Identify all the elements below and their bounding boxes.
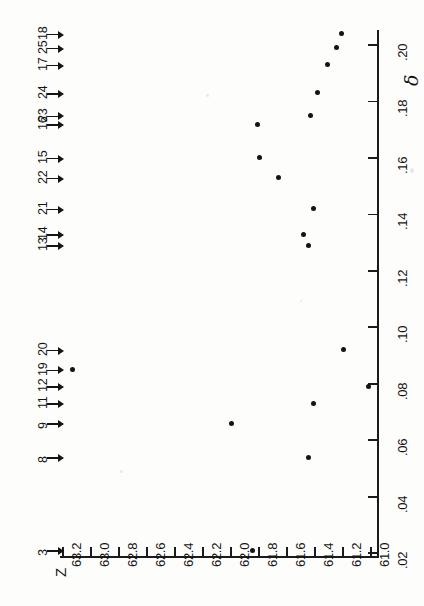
arrow-head-icon: [58, 242, 64, 250]
z-tick-label: 61.0: [377, 543, 392, 567]
z-tick: [202, 547, 204, 558]
data-point: [257, 155, 262, 160]
delta-tick: [368, 157, 379, 159]
data-point: [325, 62, 330, 67]
z-tick-label: 61.6: [293, 543, 308, 567]
data-point: [339, 31, 344, 36]
scan-speck: [410, 168, 414, 173]
data-point: [308, 113, 313, 118]
delta-tick: [368, 214, 379, 216]
z-tick-label: 62.4: [181, 543, 196, 567]
z-tick: [118, 547, 120, 558]
arrow-head-icon: [58, 366, 64, 374]
data-point: [334, 45, 339, 50]
arrow-marker-label: 3: [36, 550, 50, 557]
arrow-head-icon: [58, 112, 64, 120]
z-axis-label: Z: [52, 568, 69, 577]
z-tick: [342, 547, 344, 558]
z-tick-label: 63.2: [69, 543, 84, 567]
data-point: [315, 90, 320, 95]
data-point: [250, 548, 255, 553]
arrow-head-icon: [58, 31, 64, 39]
arrow-marker-label: 21: [36, 201, 50, 214]
z-tick-label: 62.0: [237, 543, 252, 567]
data-point: [341, 347, 346, 352]
arrow-head-icon: [58, 121, 64, 129]
delta-tick: [368, 44, 379, 46]
arrow-marker-label: 12: [36, 379, 50, 392]
arrow-head-icon: [58, 175, 64, 183]
data-point: [306, 455, 311, 460]
arrow-marker-label: 15: [36, 151, 50, 164]
arrow-marker-label: 17: [36, 57, 50, 70]
z-tick: [286, 547, 288, 558]
arrow-marker-label: 22: [36, 170, 50, 183]
scan-speck: [300, 300, 302, 302]
arrow-marker-label: 19: [36, 362, 50, 375]
arrow-marker-label: 8: [36, 456, 50, 463]
arrow-marker-label: 13: [36, 238, 50, 251]
z-tick-label: 61.8: [265, 543, 280, 567]
delta-tick-label: .08: [395, 382, 410, 399]
z-tick: [174, 547, 176, 558]
delta-tick-label: .16: [395, 157, 410, 174]
z-tick-label: 62.6: [153, 543, 168, 567]
arrow-head-icon: [58, 383, 64, 391]
delta-tick-label: .20: [395, 44, 410, 61]
scan-speck: [120, 470, 123, 473]
data-point: [255, 122, 260, 127]
data-point: [366, 384, 371, 389]
arrow-head-icon: [58, 420, 64, 428]
data-point: [70, 367, 75, 372]
z-tick: [230, 547, 232, 558]
z-tick-label: 62.8: [125, 543, 140, 567]
z-tick: [258, 547, 260, 558]
delta-axis-line: [377, 30, 379, 558]
delta-axis-label: δ: [400, 75, 422, 86]
delta-tick: [368, 101, 379, 103]
delta-tick-label: .06: [395, 439, 410, 456]
arrow-marker-label: 23: [36, 108, 50, 121]
delta-tick-label: .14: [395, 213, 410, 230]
z-tick-label: 61.4: [321, 543, 336, 567]
arrow-head-icon: [58, 62, 64, 70]
arrow-marker-label: 25: [36, 41, 50, 54]
z-tick: [90, 547, 92, 558]
data-point: [301, 232, 306, 237]
delta-tick-label: .04: [395, 495, 410, 512]
arrow-marker-label: 14: [36, 227, 50, 240]
arrow-head-icon: [58, 347, 64, 355]
arrow-head-icon: [58, 206, 64, 214]
data-point: [311, 206, 316, 211]
arrow-marker-label: 20: [36, 342, 50, 355]
delta-tick-label: .02: [395, 552, 410, 569]
z-tick-label: 62.2: [209, 543, 224, 567]
data-point: [229, 421, 234, 426]
delta-tick: [368, 326, 379, 328]
arrow-head-icon: [58, 547, 64, 555]
delta-tick: [368, 270, 379, 272]
z-tick-label: 63.0: [97, 543, 112, 567]
arrow-head-icon: [58, 155, 64, 163]
arrow-head-icon: [58, 400, 64, 408]
data-point: [276, 175, 281, 180]
arrow-marker-label: 18: [36, 26, 50, 39]
arrow-marker-label: 11: [36, 397, 50, 409]
delta-tick-label: .18: [395, 100, 410, 117]
delta-tick-label: .12: [395, 270, 410, 287]
data-point: [306, 243, 311, 248]
arrow-head-icon: [58, 45, 64, 53]
z-tick-label: 61.2: [349, 543, 364, 567]
arrow-head-icon: [58, 90, 64, 98]
arrow-marker-label: 9: [36, 423, 50, 430]
scan-speck: [206, 94, 209, 97]
delta-tick: [368, 439, 379, 441]
z-tick: [146, 547, 148, 558]
z-tick: [314, 547, 316, 558]
delta-tick-label: .10: [395, 326, 410, 343]
z-tick: [370, 547, 372, 558]
data-point: [311, 401, 316, 406]
delta-tick: [368, 496, 379, 498]
arrow-head-icon: [58, 231, 64, 239]
figure-canvas: .02.04.06.08.10.12.14.16.18.20 63.263.06…: [0, 0, 424, 606]
